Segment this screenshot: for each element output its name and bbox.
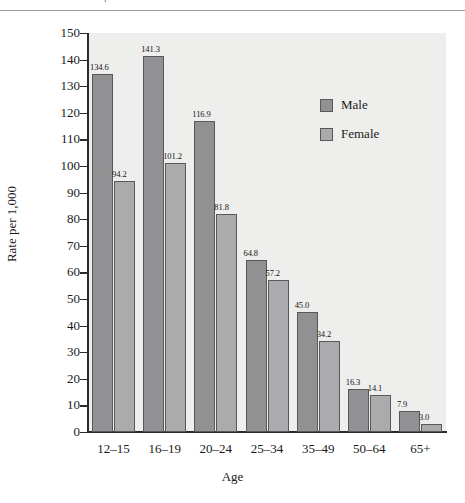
y-tick-mark	[80, 166, 88, 167]
y-tick-mark	[80, 219, 88, 220]
bar-group: 141.3101.2	[143, 33, 186, 432]
y-tick-label: 90	[20, 185, 80, 201]
legend-item-male[interactable]: Male	[320, 97, 379, 113]
x-tick-label: 20–24	[190, 441, 241, 457]
bar-value-label: 57.2	[266, 268, 280, 278]
y-tick-label: 70	[20, 238, 80, 254]
legend-swatch-male	[320, 99, 333, 112]
bar-value-label: 34.2	[317, 329, 331, 339]
y-tick-mark	[80, 113, 88, 114]
x-tick-label: 35–49	[293, 441, 344, 457]
bar-value-label: 64.8	[244, 248, 258, 258]
y-tick-mark	[80, 379, 88, 380]
y-tick-label: 80	[20, 211, 80, 227]
bar-value-label: 101.2	[163, 151, 182, 161]
bar-value-label: 3.0	[419, 412, 429, 422]
y-tick-label: 120	[20, 105, 80, 121]
bar-chart: 0102030405060708090100110120130140150 Ra…	[0, 11, 465, 503]
y-tick-mark	[80, 60, 88, 61]
bar-male[interactable]	[246, 260, 267, 432]
bar-male[interactable]	[348, 389, 369, 432]
bar-group: 116.981.8	[194, 33, 237, 432]
bar-group: 134.694.2	[92, 33, 135, 432]
bar-group: 7.93.0	[399, 33, 442, 432]
y-tick-mark	[80, 33, 88, 34]
bar-female[interactable]	[114, 181, 135, 432]
y-tick-label: 140	[20, 52, 80, 68]
bar-male[interactable]	[194, 121, 215, 432]
bar-male[interactable]	[92, 74, 113, 432]
chart-legend: MaleFemale	[320, 97, 379, 155]
bar-value-label: 16.3	[346, 377, 360, 387]
bar-female[interactable]	[268, 280, 289, 432]
y-axis-title: Rate per 1,000	[4, 149, 20, 299]
y-tick-label: 30	[20, 344, 80, 360]
y-tick-label: 130	[20, 78, 80, 94]
y-tick-mark	[80, 352, 88, 353]
bar-female[interactable]	[216, 214, 237, 432]
bar-value-label: 134.6	[90, 62, 109, 72]
x-tick-label: 25–34	[241, 441, 292, 457]
bar-male[interactable]	[297, 312, 318, 432]
bar-value-label: 141.3	[141, 44, 160, 54]
running-head-strip: and Distribution of Delinquent Behavior	[0, 0, 465, 9]
y-axis-tick-labels: 0102030405060708090100110120130140150	[10, 11, 80, 441]
y-tick-label: 20	[20, 371, 80, 387]
bar-series-container: 134.694.2141.3101.2116.981.864.857.245.0…	[88, 33, 446, 432]
y-tick-mark	[80, 432, 88, 433]
bar-group: 45.034.2	[297, 33, 340, 432]
bar-value-label: 7.9	[397, 399, 407, 409]
y-tick-label: 150	[20, 25, 80, 41]
y-tick-label: 10	[20, 397, 80, 413]
y-tick-mark	[80, 272, 88, 273]
y-tick-mark	[80, 299, 88, 300]
y-tick-mark	[80, 246, 88, 247]
x-tick-label: 16–19	[139, 441, 190, 457]
figure-page: and Distribution of Delinquent Behavior …	[0, 0, 465, 503]
bar-male[interactable]	[399, 411, 420, 432]
y-tick-label: 110	[20, 131, 80, 147]
y-tick-mark	[80, 86, 88, 87]
bar-female[interactable]	[165, 163, 186, 432]
y-tick-label: 0	[20, 424, 80, 440]
legend-label: Male	[341, 97, 368, 113]
y-tick-label: 60	[20, 264, 80, 280]
x-tick-label: 50–64	[344, 441, 395, 457]
y-tick-mark	[80, 326, 88, 327]
bar-male[interactable]	[143, 56, 164, 432]
bar-group: 16.314.1	[348, 33, 391, 432]
y-tick-label: 50	[20, 291, 80, 307]
x-tick-label: 12–15	[88, 441, 139, 457]
y-tick-label: 40	[20, 318, 80, 334]
x-tick-label: 65+	[395, 441, 446, 457]
bar-female[interactable]	[421, 424, 442, 432]
bar-value-label: 81.8	[214, 202, 228, 212]
bar-female[interactable]	[370, 395, 391, 433]
bar-value-label: 14.1	[368, 383, 382, 393]
y-tick-label: 100	[20, 158, 80, 174]
y-tick-mark	[80, 139, 88, 140]
running-head-text: and Distribution of Delinquent Behavior	[6, 0, 160, 2]
legend-label: Female	[341, 126, 379, 142]
x-axis-title: Age	[0, 469, 465, 485]
bar-value-label: 45.0	[295, 300, 309, 310]
bar-value-label: 116.9	[192, 109, 210, 119]
legend-item-female[interactable]: Female	[320, 126, 379, 142]
y-tick-mark	[80, 405, 88, 406]
legend-swatch-female	[320, 128, 333, 141]
bar-group: 64.857.2	[246, 33, 289, 432]
bar-value-label: 94.2	[112, 169, 126, 179]
y-tick-mark	[80, 193, 88, 194]
bar-female[interactable]	[319, 341, 340, 432]
